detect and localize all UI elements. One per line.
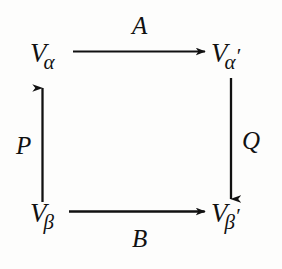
vertex-subscript: α <box>44 52 55 73</box>
edge-label-left: P <box>16 133 31 158</box>
vertex-label-top-left: Vα <box>30 40 58 67</box>
commutative-diagram: Vα Vα′ Vβ Vβ′ A B P Q <box>0 0 282 269</box>
edge-label-bottom: B <box>132 226 147 251</box>
edge-label-top: A <box>132 13 147 38</box>
edge-label-right: Q <box>242 128 260 153</box>
vertex-label-bottom-right: Vβ′ <box>211 200 243 227</box>
vertex-subscript: α <box>225 52 236 73</box>
vertex-subscript: β <box>44 212 54 233</box>
vertex-label-top-right: Vα′ <box>211 40 243 67</box>
vertex-prime: ′ <box>236 46 241 67</box>
vertex-label-bottom-left: Vβ <box>30 200 57 227</box>
vertex-subscript: β <box>225 212 235 233</box>
vertex-prime: ′ <box>235 206 240 227</box>
